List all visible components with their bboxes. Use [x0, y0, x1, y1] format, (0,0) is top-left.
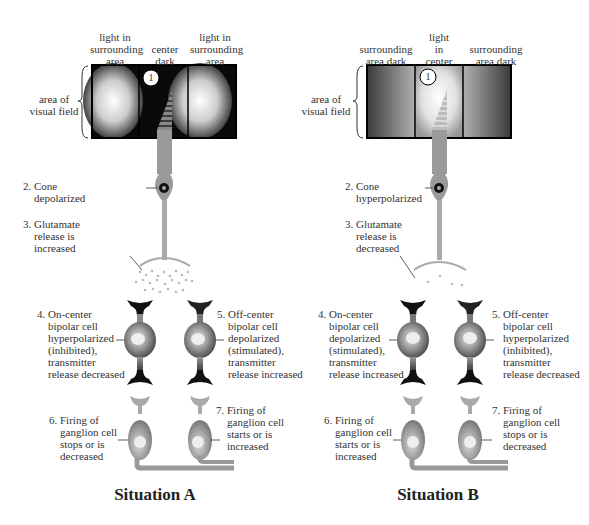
- field-label-b-left: surrounding area dark: [350, 43, 422, 67]
- brace-icon: [353, 66, 363, 138]
- area-label-b: area of visual field: [300, 93, 352, 117]
- step7-b: 7. Firing of ganglion cell stops or is d…: [492, 404, 560, 452]
- ganglion-cell-on-b: [393, 396, 508, 468]
- step5-a: 5. Off-center bipolar cell depolarized (…: [217, 308, 303, 380]
- field-label-b-right: surrounding area dark: [463, 43, 529, 67]
- field-label-b-center: light in center: [415, 31, 463, 67]
- situation-a-graphic: [78, 63, 236, 468]
- area-label-a: area of visual field: [28, 93, 80, 117]
- situation-b-graphic: [353, 65, 511, 468]
- situation-b-title: Situation B: [358, 485, 518, 505]
- step6-a: 6. Firing of ganglion cell stops or is d…: [49, 414, 117, 462]
- step5-b: 5. Off-center bipolar cell hyperpolarize…: [492, 308, 580, 380]
- marker-label-a: 1: [143, 72, 159, 84]
- visual-field-b: [367, 65, 415, 138]
- field-label-a-left: light in surrounding area: [90, 31, 140, 67]
- field-label-a-center: center dark: [140, 43, 190, 67]
- marker-label-b: 1: [420, 71, 436, 83]
- field-label-a-right: light in surrounding area: [190, 31, 240, 67]
- step2-b: 2. Cone hyperpolarized: [345, 180, 422, 204]
- step4-b: 4. On-center bipolar cell depolarized (s…: [318, 308, 404, 380]
- step7-a: 7. Firing of ganglion cell starts or is …: [216, 404, 284, 452]
- step3-a: 3. Glutamate release is increased: [23, 218, 80, 254]
- situation-a-title: Situation A: [75, 485, 235, 505]
- step6-b: 6. Firing of ganglion cell starts or is …: [324, 414, 392, 462]
- step4-a: 4. On-center bipolar cell hyperpolarized…: [37, 308, 125, 380]
- step2-a: 2. Cone depolarized: [23, 180, 85, 204]
- step3-b: 3. Glutamate release is decreased: [345, 218, 402, 254]
- off-center-bipolar-b: [454, 300, 494, 385]
